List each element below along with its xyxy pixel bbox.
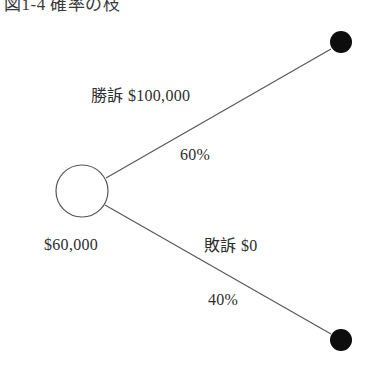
branch-label-lose: 敗訴 $0: [204, 232, 258, 256]
decision-tree-graphic: [0, 0, 374, 370]
branch-line-lose: [105, 205, 331, 334]
branch-label-win: 勝訴 $100,000: [91, 82, 190, 106]
branch-probability-win: 60%: [180, 146, 210, 164]
terminal-node-win: [330, 31, 352, 53]
figure-canvas: 図1-4 確率の枝 勝訴 $100,000 60% 敗訴 $0 40% $60,…: [0, 0, 374, 370]
terminal-node-lose: [330, 329, 352, 351]
branch-line-win: [106, 49, 331, 178]
branch-probability-lose: 40%: [208, 291, 238, 309]
expected-value-label: $60,000: [44, 236, 98, 254]
chance-node-circle: [56, 165, 108, 217]
